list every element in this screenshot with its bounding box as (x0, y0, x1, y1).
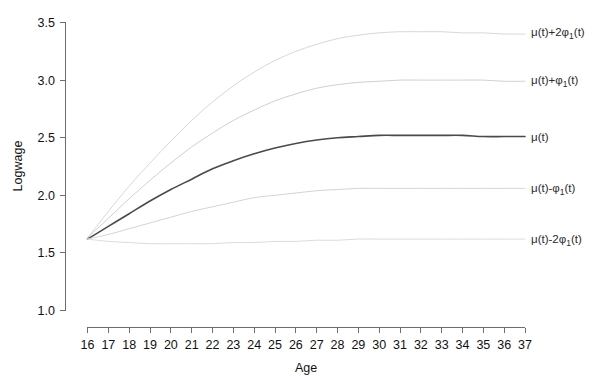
x-tick-label: 36 (497, 338, 511, 352)
y-tick-label: 3.0 (38, 74, 55, 88)
y-tick-label: 3.5 (38, 16, 55, 30)
curve-label-mu-minus-phi1: μ(t)-φ1(t) (531, 182, 576, 197)
y-axis-title: Logwage (11, 141, 25, 192)
x-tick-label: 35 (476, 338, 490, 352)
curve-mu(t)-2phi_1(t) (88, 239, 526, 244)
x-tick-label: 31 (393, 338, 407, 352)
y-tick-label: 2.5 (38, 131, 55, 145)
x-tick-label: 18 (122, 338, 136, 352)
x-tick-label: 32 (414, 338, 428, 352)
x-axis-ticks (88, 328, 526, 334)
x-tick-label: 30 (372, 338, 386, 352)
x-tick-label: 26 (289, 338, 303, 352)
logwage-age-line-chart: 3.5 3.0 2.5 2.0 1.5 1.0 Logwage (0, 0, 605, 380)
x-axis-tick-labels: 1617181920212223242526272829303132333435… (81, 338, 532, 352)
x-tick-label: 25 (268, 338, 282, 352)
x-tick-label: 16 (81, 338, 95, 352)
y-tick-label: 2.0 (38, 189, 55, 203)
curve-mu(t)-phi_1(t) (88, 188, 526, 239)
x-tick-label: 28 (331, 338, 345, 352)
x-tick-label: 24 (247, 338, 261, 352)
x-tick-label: 21 (185, 338, 199, 352)
x-tick-label: 17 (101, 338, 115, 352)
x-tick-label: 27 (310, 338, 324, 352)
x-axis-title: Age (295, 361, 317, 375)
x-tick-label: 29 (351, 338, 365, 352)
x-tick-label: 19 (143, 338, 157, 352)
x-tick-label: 23 (226, 338, 240, 352)
chart-curves (88, 32, 526, 244)
y-axis-tick-labels: 3.5 3.0 2.5 2.0 1.5 1.0 (38, 16, 55, 318)
x-tick-label: 33 (435, 338, 449, 352)
y-axis-ticks (60, 23, 66, 311)
curve-label-mu-plus-phi1: μ(t)+φ1(t) (531, 74, 578, 89)
y-tick-label: 1.0 (38, 304, 55, 318)
chart-figure: 3.5 3.0 2.5 2.0 1.5 1.0 Logwage (0, 0, 605, 380)
x-tick-label: 37 (518, 338, 532, 352)
y-tick-label: 1.5 (38, 246, 55, 260)
x-tick-label: 22 (206, 338, 220, 352)
curve-mu(t) (88, 135, 526, 239)
curve-label-mu-plus-2phi1: μ(t)+2φ1(t) (531, 26, 585, 41)
curve-label-mu-minus-2phi1: μ(t)-2φ1(t) (531, 233, 582, 248)
x-tick-label: 34 (456, 338, 470, 352)
x-tick-label: 20 (164, 338, 178, 352)
curve-label-mu: μ(t) (531, 131, 549, 143)
curve-labels: μ(t)+2φ1(t) μ(t)+φ1(t) μ(t) μ(t)-φ1(t) μ… (531, 26, 585, 248)
